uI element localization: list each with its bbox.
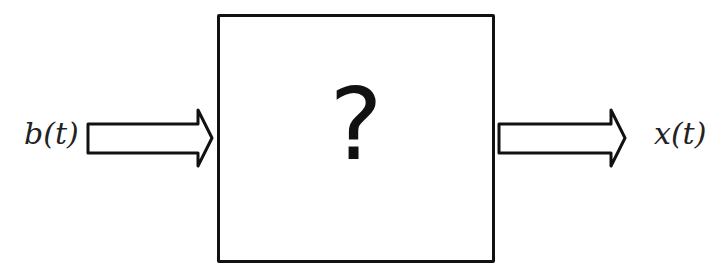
output-signal-label: x(t) xyxy=(654,116,706,151)
input-arrow-icon xyxy=(88,110,212,166)
output-arrow-icon xyxy=(499,110,625,166)
unknown-symbol: ? xyxy=(220,75,492,175)
unknown-system-box: ? xyxy=(217,14,495,263)
